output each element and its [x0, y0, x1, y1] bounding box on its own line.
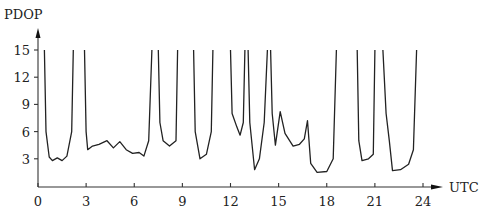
y-ticks: 3691215	[13, 43, 38, 167]
y-tick-label: 15	[13, 43, 30, 58]
x-tick-label: 15	[270, 194, 287, 209]
x-tick-label: 12	[222, 194, 239, 209]
y-tick-label: 3	[22, 152, 30, 167]
x-tick-label: 18	[318, 194, 335, 209]
x-tick-label: 3	[82, 194, 90, 209]
y-axis-label: PDOP	[4, 7, 43, 22]
y-tick-label: 6	[22, 125, 30, 140]
y-axis-arrow-icon	[36, 28, 41, 38]
x-tick-label: 9	[178, 194, 186, 209]
y-tick-label: 12	[13, 70, 30, 85]
x-tick-label: 21	[367, 194, 384, 209]
x-axis-label: UTC	[449, 180, 479, 195]
y-tick-label: 9	[22, 97, 30, 112]
x-axis-arrow-icon	[431, 185, 443, 190]
pdop-series-line	[44, 50, 416, 172]
x-tick-label: 24	[415, 194, 432, 209]
x-tick-label: 0	[34, 194, 42, 209]
pdop-chart: 3691215 03691215182124 PDOP UTC	[0, 0, 488, 216]
x-tick-label: 6	[130, 194, 138, 209]
